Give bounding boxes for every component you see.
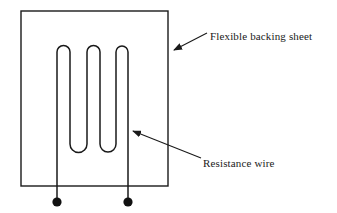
label-resistance-wire: Resistance wire: [203, 157, 275, 169]
flexible-backing-sheet-rect: [21, 11, 168, 186]
leader-line-resistance-wire: [133, 131, 201, 158]
terminal-dot-left: [52, 197, 61, 206]
terminal-dot-right: [123, 197, 132, 206]
diagram-canvas: Flexible backing sheet Resistance wire: [0, 0, 337, 213]
leader-line-backing-sheet: [174, 33, 207, 50]
label-flexible-backing-sheet: Flexible backing sheet: [210, 30, 312, 42]
resistance-wire-path: [57, 46, 128, 187]
